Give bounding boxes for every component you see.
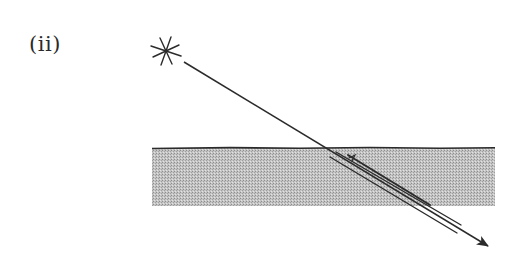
ray-diagram	[0, 0, 513, 274]
medium-slab	[152, 148, 495, 207]
star-light-source-icon	[151, 37, 181, 65]
surface-line	[152, 148, 495, 149]
